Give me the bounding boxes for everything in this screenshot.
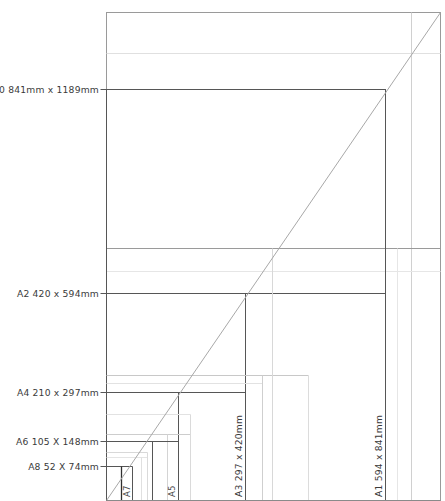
left-labels-group: A0 841mm x 1189mm A2 420 x 594mm A4 210 …	[0, 84, 99, 472]
paper-rect-a8	[107, 467, 122, 501]
label-a7: A7	[122, 485, 132, 497]
leader-lines-group	[101, 90, 107, 467]
construction-lines-small-group	[107, 415, 191, 501]
label-a6: A6 105 X 148mm	[16, 436, 99, 447]
label-a2: A2 420 x 594mm	[17, 288, 99, 299]
paper-series-drawing: A0 841mm x 1189mm A2 420 x 594mm A4 210 …	[0, 0, 445, 501]
diagonal-group	[107, 13, 441, 501]
paper-rect-a3	[107, 393, 246, 501]
rotated-labels-group: A1 594 x 841mm A3 297 x 420mm A5 A7	[122, 415, 384, 497]
paper-size-diagram: A0 841mm x 1189mm A2 420 x 594mm A4 210 …	[0, 0, 445, 501]
label-a8: A8 52 X 74mm	[28, 461, 99, 472]
label-a3: A3 297 x 420mm	[233, 415, 244, 497]
label-a1: A1 594 x 841mm	[373, 415, 384, 497]
label-a4: A4 210 x 297mm	[17, 387, 99, 398]
construction-lines-mid-group	[107, 249, 309, 501]
diagonal-line	[107, 13, 441, 501]
label-a5: A5	[167, 485, 177, 497]
label-a0: A0 841mm x 1189mm	[0, 84, 99, 95]
